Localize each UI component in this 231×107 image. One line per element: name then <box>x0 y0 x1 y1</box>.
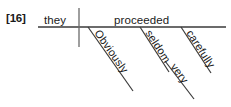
modifier-word-seldom: seldom <box>143 28 173 65</box>
modifier-word-carefully: carefully <box>184 28 218 71</box>
diagram-canvas: [16] they proceeded Obviously seldom car… <box>0 0 231 107</box>
modifier-word-obviously: Obviously <box>92 27 131 75</box>
subject-word: they <box>44 14 66 26</box>
sentence-diagram-figure: [16] they proceeded Obviously seldom car… <box>0 0 231 107</box>
example-number-label: [16] <box>6 12 26 24</box>
modifier-word-very: very <box>168 61 191 86</box>
verb-word: proceeded <box>114 14 169 26</box>
